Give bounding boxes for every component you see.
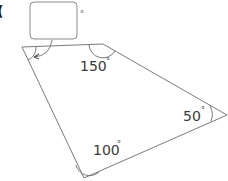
angle-arc-unknown <box>28 47 36 60</box>
angle-arc-50 <box>210 106 212 121</box>
degree-symbol: ° <box>117 140 121 149</box>
angle-label-150: 150 <box>80 58 107 74</box>
angle-arc-150 <box>89 45 115 58</box>
answer-box[interactable] <box>30 2 77 39</box>
answer-unit: ° <box>80 10 84 19</box>
degree-symbol: ° <box>106 57 110 66</box>
angle-label-50: 50 <box>183 108 201 124</box>
degree-symbol: ° <box>201 106 205 115</box>
pointer-arrow <box>34 40 52 57</box>
angle-diagram: ( ° 150 ° 50 ° 100 ° <box>0 0 228 181</box>
angle-arc-100 <box>76 165 99 176</box>
angle-label-100: 100 <box>93 142 120 158</box>
part-label: ( <box>0 3 3 19</box>
